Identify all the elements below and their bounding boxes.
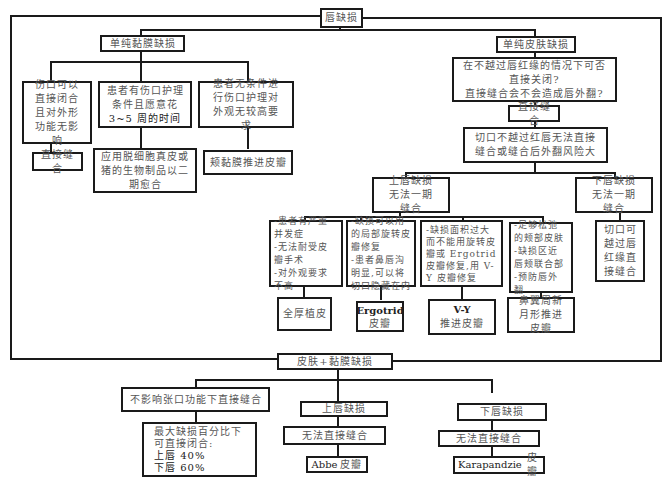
line: 在不越过唇红缘的情况下可否 [463,59,606,73]
criterion: -缺损面积过大而不能用旋转皮瓣或 Ergotrid 皮瓣修复,用 V-Y 皮瓣修… [426,224,497,284]
ergotrid-label: Ergotrid [356,304,403,317]
mucosa-option-2-action: 应用脱细胞真皮或猪的生物制品以二期愈合 [93,148,197,193]
combined-lower-step-label: 无法直接缝合 [456,432,522,446]
lower-lip-percent: 下唇 60% [154,462,205,474]
upper-option-2: -缺损可以用的局部旋转皮瓣修复 -患者鼻唇沟明显,可以将切口隐藏在内 [346,220,416,287]
line: 患者有伤口护理 [107,84,184,98]
upper-option-4-action: 鼻翼周新月形推进皮瓣 [507,297,575,333]
connector [10,15,321,17]
combined-lower: 下唇缺损 [457,403,547,421]
connector [10,15,12,359]
connector [140,29,536,31]
buccal-flap-label: 颊黏膜推进皮瓣 [210,156,287,170]
line: 条件且愿意花 [112,98,178,112]
combined-title: 皮肤+黏膜缺损 [297,355,372,369]
skin-question: 在不越过唇红缘的情况下可否 直接关闭? 直接缝合会不会造成唇外翻? [452,57,617,102]
secondary-healing-label: 应用脱细胞真皮或猪的生物制品以二期愈合 [98,150,192,192]
lower-title: 下唇缺损无法一期缝合 [587,174,641,216]
upper-option-1-action: 全厚植皮 [277,297,332,331]
criterion: -预防唇外翻 [514,271,568,297]
mucosa-option-3: 患者无条件进行伤口护理对外观无较高要求 [198,81,294,128]
lower-action-label: 切口可越过唇红缘直接缝合 [603,223,637,279]
connector [405,172,616,174]
risk-label: 切口不越过红唇无法直接缝合或缝合后外翻风险大 [473,131,598,159]
connector [195,379,492,381]
connector [362,17,660,19]
direct-suture-label: 直接缝合 [37,148,78,176]
vy-label: V-Y [453,303,470,317]
direct-suture-label: 直接缝合 [513,100,555,128]
abbe-label: Abbe [312,458,338,472]
combined-upper-step: 无法直接缝合 [283,426,386,445]
mucosa-title: 单纯黏膜缺损 [110,37,176,51]
combined-upper-step-label: 无法直接缝合 [302,429,368,443]
mucosa-option-3-condition: 患者无条件进行伤口护理对外观无较高要求 [208,77,284,133]
connector [461,286,463,300]
mucosa-option-1: 伤口可以直接闭合且对外形功能无影响 [22,81,92,144]
flap-label: 皮瓣 [525,451,540,479]
criterion: -缺损区近唇颊联合部 [514,245,568,271]
skin-risk: 切口不越过红唇无法直接缝合或缝合后外翻风险大 [463,127,608,163]
upper-option-2-action: Ergotrid 皮瓣 [356,301,404,332]
criterion: -对外观要求不高 [274,267,338,293]
connector [50,61,249,63]
connector [337,368,339,403]
line: 最大缺损百分比下 [154,426,242,438]
lower-lip-action: 切口可越过唇红缘直接缝合 [595,220,645,282]
skin-direct-suture: 直接缝合 [508,105,560,122]
flap-label: 皮瓣 [340,458,362,472]
line: 直接缝合会不会造成唇外翻? [465,87,603,101]
mucosa-defect: 单纯黏膜缺损 [100,35,185,52]
criterion: -患者有严重并发症 [274,215,338,241]
full-thickness-graft-label: 全厚植皮 [283,307,327,321]
connector [10,358,278,360]
line: 直接关闭? [509,73,559,87]
flap-label: 皮瓣 [369,317,391,330]
mucosa-option-1-action: 直接缝合 [32,152,83,171]
combined-upper-action: Abbe 皮瓣 [306,456,368,473]
connector [304,216,544,218]
upper-option-3-action: V-Y 推进皮瓣 [428,299,496,335]
upper-lip-no-primary: 上唇缺损无法一期缝合 [372,177,450,213]
crescent-flap-label: 鼻翼周新月形推进皮瓣 [515,294,567,336]
combined-direct: 不影响张口功能下直接缝合 [121,387,270,412]
connector [140,61,142,83]
root-lip-defect: 唇缺损 [320,8,363,28]
line: 3~5 周的时间 [109,112,181,126]
criterion: -患者鼻唇沟明显,可以将切口隐藏在内 [351,254,411,293]
skin-defect: 单纯皮肤缺损 [496,36,576,53]
mucosa-option-2: 患者有伤口护理 条件且愿意花 3~5 周的时间 [98,81,192,128]
combined-direct-title: 不影响张口功能下直接缝合 [130,393,262,407]
connector [140,127,142,149]
criterion: -足够松弛的颊部皮肤 [514,219,568,245]
combined-direct-detail: 最大缺损百分比下 可直接闭合: 上唇 40% 下唇 60% [142,422,257,477]
combined-lower-title: 下唇缺损 [480,405,524,419]
criterion: -缺损可以用的局部旋转皮瓣修复 [351,215,411,254]
mucosa-option-3-action: 颊黏膜推进皮瓣 [203,150,293,175]
combined-lower-step: 无法直接缝合 [438,430,540,447]
upper-lip-percent: 上唇 40% [154,450,205,462]
combined-lower-action: Karapandzie 皮瓣 [453,456,545,474]
connector [660,17,662,362]
skin-title: 单纯皮肤缺损 [503,38,569,52]
karapandzie-label: Karapandzie [458,458,522,472]
upper-option-1: -患者有严重并发症 -无法耐受皮瓣手术 -对外观要求不高 [269,220,343,287]
combined-defect: 皮肤+黏膜缺损 [277,353,393,370]
combined-upper: 上唇缺损 [300,401,388,417]
advancement-flap-label: 推进皮瓣 [440,317,484,331]
combined-upper-title: 上唇缺损 [322,402,366,416]
root-label: 唇缺损 [325,11,358,25]
upper-option-4: -足够松弛的颊部皮肤 -缺损区近唇颊联合部 -预防唇外翻 [509,222,573,293]
connector [491,379,493,393]
line: 可直接闭合: [154,438,213,450]
criterion: -无法耐受皮瓣手术 [274,241,338,267]
connector [392,360,662,362]
upper-title: 上唇缺损无法一期缝合 [386,174,436,216]
lower-lip-no-primary: 下唇缺损无法一期缝合 [575,177,653,213]
mucosa-option-1-condition: 伤口可以直接闭合且对外形功能无影响 [30,78,84,148]
upper-option-3: -缺损面积过大而不能用旋转皮瓣或 Ergotrid 皮瓣修复,用 V-Y 皮瓣修… [420,220,503,287]
